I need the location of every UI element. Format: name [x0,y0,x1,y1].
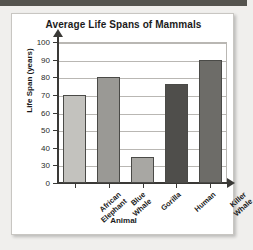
y-tick-mark [53,183,57,184]
bar [97,77,120,183]
x-axis-arrow-icon [227,178,235,188]
x-tick-mark [143,184,144,188]
y-tick-label: 0 [22,179,50,188]
chart-card: Average Life Spans of Mammals 0304050607… [11,13,234,235]
x-axis-title: Animal [12,216,235,225]
bar [63,95,86,183]
y-tick-mark [53,60,57,61]
top-strip [0,0,247,6]
x-category-label: BlueWhale [124,190,152,218]
x-category-label: Gorilla [159,190,183,213]
bar [131,157,154,183]
x-category-label: Human [193,190,218,214]
y-tick-mark [53,165,57,166]
chart-title: Average Life Spans of Mammals [12,19,235,30]
bar [165,84,188,183]
y-tick-mark [53,95,57,96]
bar [199,60,222,183]
gridline [58,43,227,44]
y-tick-mark [53,130,57,131]
x-category-label: KillerWhale [226,190,247,218]
y-tick-mark [53,42,57,43]
y-axis-arrow-icon [53,29,63,37]
y-tick-label: 30 [22,161,50,170]
y-tick-mark [53,148,57,149]
y-tick-label: 40 [22,143,50,152]
y-axis-title: Life Span (years) [25,31,34,131]
x-tick-mark [210,184,211,188]
y-tick-mark [53,77,57,78]
y-tick-mark [53,113,57,114]
x-tick-mark [109,184,110,188]
x-tick-mark [176,184,177,188]
y-axis-line [57,36,59,184]
x-tick-mark [75,184,76,188]
